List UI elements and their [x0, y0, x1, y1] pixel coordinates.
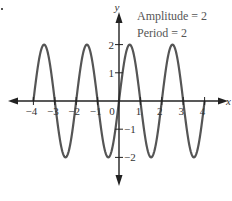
x-tick-label: 0 — [109, 105, 115, 117]
x-tick-label: −1 — [90, 105, 102, 117]
y-axis-label: y — [114, 1, 120, 13]
y-tick-label: 2 — [109, 39, 115, 51]
period-annotation: Period = 2 — [137, 25, 187, 42]
x-axis-left-arrow-icon — [8, 98, 18, 105]
x-tick-label: −4 — [26, 105, 38, 117]
x-tick-label: 3 — [178, 105, 184, 117]
y-tick-label: 1 — [109, 67, 115, 79]
x-tick-label: −3 — [47, 105, 59, 117]
y-tick-label: −1 — [124, 123, 136, 135]
x-tick-label: 4 — [200, 105, 206, 117]
amplitude-annotation: Amplitude = 2 — [137, 8, 207, 25]
axes: xy — [8, 1, 231, 186]
sine-graph: xy −4−3−2−101234−2−112 — [0, 0, 232, 201]
y-tick-label: −2 — [124, 151, 136, 163]
x-tick-label: −2 — [68, 105, 80, 117]
x-axis-label: x — [225, 95, 231, 107]
x-tick-label: 1 — [136, 105, 142, 117]
x-tick-label: 2 — [157, 105, 163, 117]
y-axis-down-arrow-icon — [116, 175, 123, 186]
y-axis-up-arrow-icon — [116, 12, 123, 23]
